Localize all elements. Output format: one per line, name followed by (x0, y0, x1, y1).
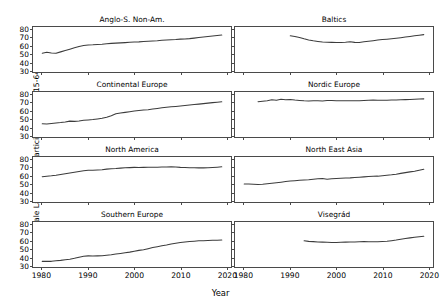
y-tick-mark (30, 249, 32, 250)
x-tick-mark (134, 203, 135, 205)
x-tick-mark (88, 73, 89, 75)
panel-visegr-d: Visegrád19801990200020102020 (234, 221, 434, 268)
plot-area (234, 221, 434, 268)
x-tick-mark (88, 268, 89, 270)
panel-title: Visegrád (234, 210, 434, 219)
x-tick-mark (181, 203, 182, 205)
y-tick-mark (30, 119, 32, 120)
panel-title: Southern Europe (32, 210, 232, 219)
y-tick-label: 40 (20, 123, 29, 132)
x-tick-mark (41, 73, 42, 75)
x-tick-label: 1980 (234, 271, 253, 280)
y-tick-mark (30, 71, 32, 72)
x-tick-label: 1990 (78, 271, 97, 280)
panel-continental-europe: Continental Europe304050607080 (32, 91, 232, 138)
y-tick-label: 80 (20, 154, 29, 163)
y-tick-label: 50 (20, 245, 29, 254)
x-tick-label: 2010 (373, 271, 392, 280)
y-tick-mark (30, 224, 32, 225)
x-tick-label: 1990 (280, 271, 299, 280)
x-tick-mark (429, 138, 430, 140)
y-tick-mark (232, 37, 234, 38)
panel-north-east-asia: North East Asia (234, 156, 434, 203)
figure-multi-panel-line-chart: Female Labor Force Participation (age 15… (0, 0, 441, 308)
plot-area (234, 91, 434, 138)
y-tick-mark (30, 63, 32, 64)
y-tick-label: 50 (20, 115, 29, 124)
x-tick-mark (336, 73, 337, 75)
y-tick-label: 70 (20, 163, 29, 172)
x-tick-mark (429, 73, 430, 75)
y-tick-mark (232, 136, 234, 137)
data-series-line (42, 35, 222, 53)
y-tick-mark (30, 258, 32, 259)
x-tick-mark (336, 203, 337, 205)
y-tick-label: 60 (20, 106, 29, 115)
y-tick-mark (30, 111, 32, 112)
x-tick-mark (336, 138, 337, 140)
y-tick-mark (30, 54, 32, 55)
data-series-line (304, 236, 424, 242)
y-tick-label: 60 (20, 41, 29, 50)
y-tick-label: 80 (20, 219, 29, 228)
x-tick-mark (243, 138, 244, 140)
y-tick-mark (232, 258, 234, 259)
y-tick-label: 40 (20, 58, 29, 67)
panel-title: North America (32, 145, 232, 154)
y-tick-mark (232, 224, 234, 225)
y-tick-label: 70 (20, 228, 29, 237)
y-tick-mark (232, 176, 234, 177)
x-tick-mark (41, 203, 42, 205)
y-tick-mark (30, 201, 32, 202)
y-tick-mark (232, 102, 234, 103)
plot-area (32, 221, 232, 268)
x-tick-mark (290, 203, 291, 205)
panel-north-america: North America304050607080 (32, 156, 232, 203)
x-tick-mark (290, 73, 291, 75)
panel-title: Continental Europe (32, 80, 232, 89)
x-tick-label: 1980 (32, 271, 51, 280)
panel-nordic-europe: Nordic Europe (234, 91, 434, 138)
x-tick-mark (429, 203, 430, 205)
y-tick-mark (30, 128, 32, 129)
y-tick-mark (30, 184, 32, 185)
data-series-line (244, 169, 424, 184)
panel-title: Baltics (234, 15, 434, 24)
x-tick-mark (227, 203, 228, 205)
y-tick-mark (232, 29, 234, 30)
y-tick-mark (232, 241, 234, 242)
y-tick-mark (232, 63, 234, 64)
x-tick-mark (383, 268, 384, 270)
y-tick-mark (232, 193, 234, 194)
y-tick-mark (232, 266, 234, 267)
y-tick-label: 30 (20, 262, 29, 271)
panel-title: Anglo-S. Non-Am. (32, 15, 232, 24)
x-tick-mark (290, 138, 291, 140)
x-tick-mark (134, 73, 135, 75)
y-tick-label: 30 (20, 197, 29, 206)
y-tick-label: 80 (20, 89, 29, 98)
y-tick-label: 80 (20, 24, 29, 33)
plot-area (32, 26, 232, 73)
panel-title: North East Asia (234, 145, 434, 154)
x-tick-mark (227, 138, 228, 140)
x-tick-mark (227, 73, 228, 75)
data-series-line (290, 35, 424, 43)
y-tick-mark (30, 176, 32, 177)
y-tick-mark (30, 102, 32, 103)
y-tick-mark (30, 29, 32, 30)
x-tick-mark (383, 73, 384, 75)
data-series-line (42, 167, 222, 177)
x-tick-mark (181, 73, 182, 75)
y-tick-label: 50 (20, 50, 29, 59)
y-tick-label: 40 (20, 253, 29, 262)
plot-area (32, 91, 232, 138)
x-tick-mark (429, 268, 430, 270)
plot-area (234, 26, 434, 73)
data-series-line (42, 102, 222, 124)
x-tick-mark (227, 268, 228, 270)
y-tick-label: 30 (20, 67, 29, 76)
y-tick-label: 40 (20, 188, 29, 197)
data-series-line (42, 240, 222, 261)
x-tick-mark (243, 203, 244, 205)
